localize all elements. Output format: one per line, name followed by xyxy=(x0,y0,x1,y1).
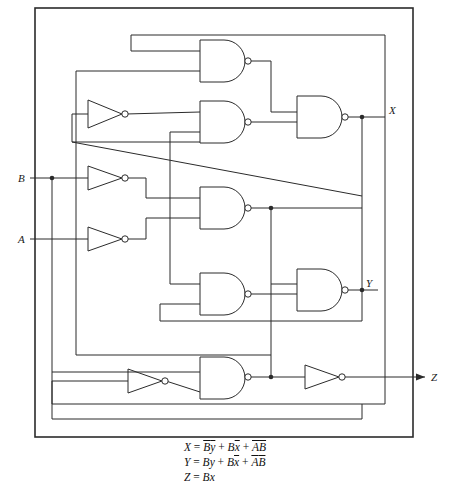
wire-diagonal-feedback xyxy=(72,142,362,196)
eq-z-lhs: Z xyxy=(184,471,190,483)
eq-y-plus-1: + xyxy=(218,456,225,468)
circuit-diagram-page: B A X Y Z X = By + Bx + AB Y = By + Bx + xyxy=(0,0,450,490)
wire-inv3-output xyxy=(126,218,200,239)
inverter-3 xyxy=(88,227,128,251)
junction-dot-Z-input xyxy=(269,375,274,380)
eq-z-equals: = xyxy=(193,471,200,483)
eq-y-equals: = xyxy=(193,456,200,468)
eq-z-t1a: B xyxy=(203,471,210,483)
wire-left-inner-bus xyxy=(76,208,271,355)
inverter-2 xyxy=(88,166,128,190)
equation-line-Y: Y = By + Bx + AB xyxy=(184,455,266,470)
eq-y-plus-2: + xyxy=(242,456,249,468)
eq-y-lhs: Y xyxy=(184,456,190,468)
nand-gate-2 xyxy=(200,101,251,143)
eq-y-t1a: B xyxy=(203,456,210,468)
junction-dot-X-output xyxy=(360,115,365,120)
equation-line-Z: Z = Bx xyxy=(184,470,266,485)
wire-inv4-output xyxy=(166,381,200,392)
wire-nand2-bottom-input xyxy=(170,132,200,208)
output-label-X: X xyxy=(388,104,397,116)
eq-x-lhs: X xyxy=(184,441,191,453)
inverter-4 xyxy=(128,369,168,393)
output-label-Y: Y xyxy=(366,277,374,289)
nand-gate-3 xyxy=(297,96,348,138)
inverter-5 xyxy=(305,365,345,389)
eq-y-t3b: B xyxy=(258,456,265,468)
wire-nand1-output xyxy=(249,61,297,112)
eq-x-plus-1: + xyxy=(218,441,225,453)
diagram-outer-frame xyxy=(35,8,413,437)
wire-nand1-top-input xyxy=(131,35,385,51)
equations-block: X = By + Bx + AB Y = By + Bx + AB Z = Bx xyxy=(0,440,450,486)
junction-dot-Y-output xyxy=(360,288,365,293)
wire-inv1-output xyxy=(126,112,200,114)
nand-gate-7 xyxy=(200,357,251,399)
eq-z-t1b: x xyxy=(210,471,215,483)
input-label-A: A xyxy=(17,233,25,245)
nand-gate-5 xyxy=(200,273,251,315)
eq-y-t1b: y xyxy=(210,456,215,468)
eq-x-plus-2: + xyxy=(243,441,250,453)
eq-x-t1b: y xyxy=(210,441,215,453)
eq-x-t3b: B xyxy=(259,441,266,453)
junction-dot-B-tap xyxy=(50,176,55,181)
wire-nand5-top-input xyxy=(170,208,200,284)
nand-gate-4 xyxy=(200,187,251,229)
eq-y-t2b: x xyxy=(234,456,239,468)
equation-line-X: X = By + Bx + AB xyxy=(184,440,266,455)
wire-nand5-bottom-input xyxy=(160,304,362,321)
eq-y-t2a: B xyxy=(227,456,234,468)
z-output-arrowhead xyxy=(416,374,425,381)
wire-inv1-input xyxy=(72,114,200,142)
eq-x-equals: = xyxy=(194,441,201,453)
inverter-1 xyxy=(88,100,128,128)
junction-dot-nand4-output xyxy=(269,206,274,211)
input-label-B: B xyxy=(18,172,25,184)
circuit-schematic: B A X Y Z xyxy=(0,0,450,490)
wire-inv2-output xyxy=(126,178,200,198)
nand-gate-6 xyxy=(297,269,348,311)
eq-x-t3a: A xyxy=(252,441,259,453)
output-label-Z: Z xyxy=(431,371,438,383)
eq-x-t2a: B xyxy=(228,441,235,453)
wire-bottom-inner-loop xyxy=(52,381,362,419)
eq-x-t2b: x xyxy=(235,441,240,453)
nand-gate-1 xyxy=(200,40,251,82)
